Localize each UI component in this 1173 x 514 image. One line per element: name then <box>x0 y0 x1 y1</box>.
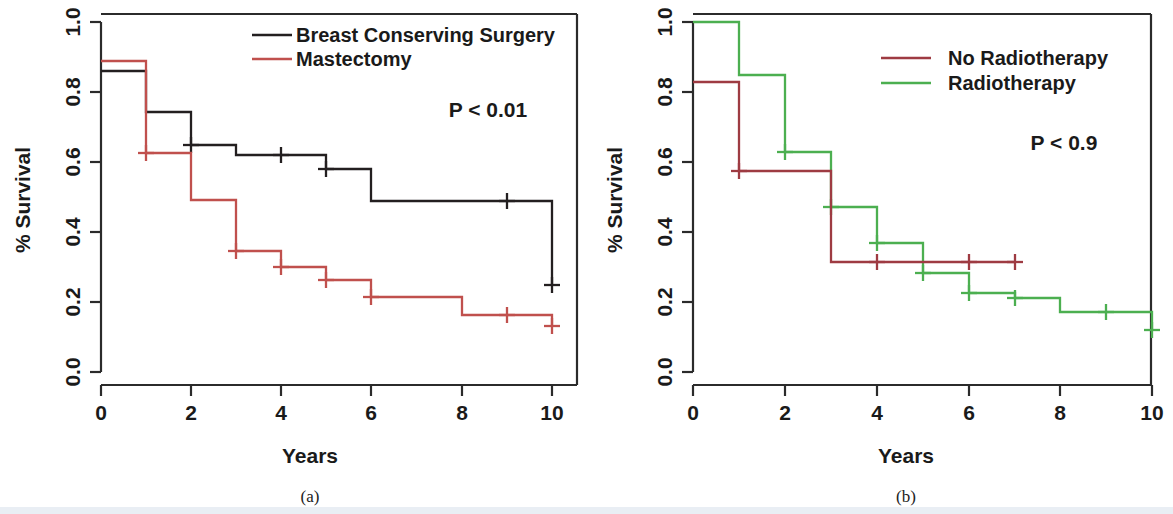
censor-marks-radiotherapy <box>777 144 1160 338</box>
y-tick-label: 0.0 <box>653 357 676 386</box>
y-tick-label: 0.8 <box>61 77 84 107</box>
panel-a-x-ticks <box>101 385 552 396</box>
panel-b-x-tick-labels: 0 2 4 6 8 10 <box>687 401 1164 424</box>
legend-label-bcs: Breast Conserving Surgery <box>296 24 556 46</box>
panel-a-legend: Breast Conserving Surgery Mastectomy <box>252 24 556 70</box>
series-no-radiotherapy <box>693 82 1023 270</box>
panel-a-x-axis-title: Years <box>282 444 338 467</box>
panel-a-y-axis-title: % Survival <box>11 147 34 253</box>
panel-b-y-tick-labels: 1.0 0.8 0.6 0.4 0.2 0.0 <box>653 7 676 386</box>
legend-label-mastectomy: Mastectomy <box>296 48 412 70</box>
x-tick-label: 8 <box>1054 401 1066 424</box>
panel-b-caption: (b) <box>896 487 916 506</box>
x-tick-label: 4 <box>275 401 287 424</box>
x-tick-label: 10 <box>1140 401 1163 424</box>
legend-label-no-radiotherapy: No Radiotherapy <box>948 47 1109 69</box>
panel-b-y-axis-title: % Survival <box>603 147 626 253</box>
x-tick-label: 0 <box>687 401 699 424</box>
x-tick-label: 2 <box>779 401 791 424</box>
y-tick-label: 1.0 <box>653 7 676 36</box>
panel-b: 1.0 0.8 0.6 0.4 0.2 0.0 0 2 4 6 <box>586 0 1172 514</box>
panel-b-legend: No Radiotherapy Radiotherapy <box>881 47 1109 94</box>
y-tick-label: 0.6 <box>61 147 84 176</box>
panel-a-y-tick-labels: 1.0 0.8 0.6 0.4 0.2 0.0 <box>61 7 84 386</box>
y-tick-label: 0.0 <box>61 357 84 386</box>
y-tick-label: 0.2 <box>61 287 84 316</box>
y-tick-label: 0.4 <box>653 217 676 247</box>
panel-b-y-ticks <box>682 22 693 372</box>
panel-a-y-ticks <box>90 22 101 372</box>
y-tick-label: 1.0 <box>61 7 84 36</box>
panel-a-pvalue: P < 0.01 <box>449 98 528 121</box>
panel-b-x-ticks <box>693 385 1152 396</box>
x-tick-label: 10 <box>540 401 563 424</box>
series-radiotherapy <box>693 22 1160 338</box>
x-tick-label: 2 <box>185 401 197 424</box>
censor-marks-mastectomy <box>138 145 560 334</box>
y-tick-label: 0.4 <box>61 217 84 247</box>
x-tick-label: 4 <box>871 401 883 424</box>
x-tick-label: 6 <box>963 401 975 424</box>
panel-b-pvalue: P < 0.9 <box>1031 131 1098 154</box>
y-tick-label: 0.2 <box>653 287 676 316</box>
panel-b-axes <box>693 14 1151 385</box>
panel-a-x-tick-labels: 0 2 4 6 8 10 <box>95 401 564 424</box>
panel-a: 1.0 0.8 0.6 0.4 0.2 0.0 0 2 4 6 <box>0 0 586 514</box>
panel-a-plot: 1.0 0.8 0.6 0.4 0.2 0.0 0 2 4 6 <box>0 0 586 514</box>
y-tick-label: 0.8 <box>653 77 676 107</box>
panel-a-caption: (a) <box>301 487 320 506</box>
legend-label-radiotherapy: Radiotherapy <box>948 72 1077 94</box>
y-tick-label: 0.6 <box>653 147 676 176</box>
page-bottom-strip <box>0 507 1173 514</box>
panel-b-plot: 1.0 0.8 0.6 0.4 0.2 0.0 0 2 4 6 <box>586 0 1172 514</box>
kaplan-meier-figure: 1.0 0.8 0.6 0.4 0.2 0.0 0 2 4 6 <box>0 0 1173 514</box>
censor-marks-bcs <box>183 137 560 293</box>
x-tick-label: 0 <box>95 401 107 424</box>
x-tick-label: 8 <box>456 401 468 424</box>
x-tick-label: 6 <box>365 401 377 424</box>
panel-b-x-axis-title: Years <box>878 444 934 467</box>
